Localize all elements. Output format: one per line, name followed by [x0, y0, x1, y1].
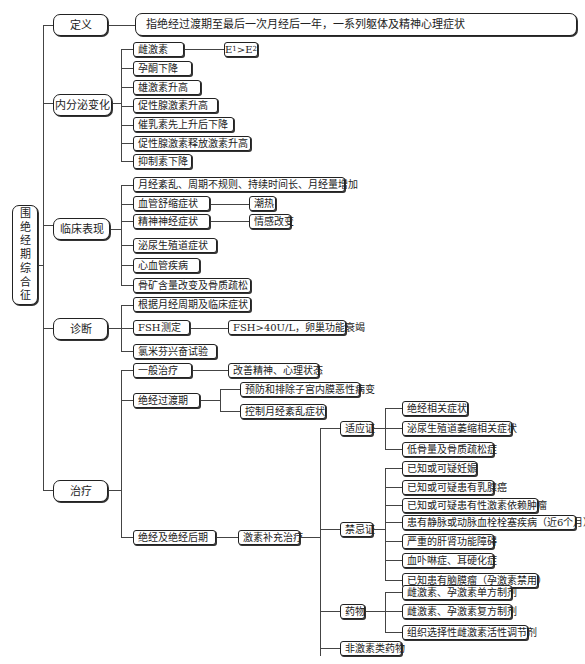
- line: [121, 245, 133, 246]
- line: [121, 68, 133, 69]
- e-label: E: [245, 45, 252, 55]
- fsh-result[interactable]: FSH>40U/L，卵巢功能衰竭: [228, 320, 346, 335]
- contraindication-item[interactable]: 已知或可疑患有性激素依赖肿瘤: [402, 498, 538, 513]
- general-treatment-sub[interactable]: 改善精神、心理状态: [228, 363, 319, 378]
- diagnosis-item-fsh[interactable]: FSH测定: [133, 320, 190, 335]
- line: [320, 529, 340, 530]
- transition-sub[interactable]: 预防和排除子宫内膜恶性病变: [240, 382, 360, 397]
- drugs-node[interactable]: 药物: [340, 604, 365, 619]
- line: [320, 428, 321, 656]
- line: [108, 490, 122, 491]
- transition-sub[interactable]: 控制月经紊乱症状: [240, 404, 326, 419]
- drug-item[interactable]: 雌激素、孕激素复方制剂: [402, 604, 512, 619]
- transition-period[interactable]: 绝经过渡期: [133, 393, 200, 408]
- postmenopause[interactable]: 绝经及绝经后期: [133, 530, 216, 545]
- root-char: 期: [20, 248, 31, 262]
- diagnosis-item[interactable]: 氯米芬兴奋试验: [133, 344, 217, 359]
- clinical-item[interactable]: 骨矿含量改变及骨质疏松: [133, 278, 251, 293]
- root-char: 征: [20, 289, 31, 303]
- line: [216, 537, 238, 538]
- line: [121, 204, 133, 205]
- root-node[interactable]: 围 绝 经 期 综 合 征: [12, 205, 38, 305]
- line: [385, 632, 402, 633]
- contraindications-node[interactable]: 禁忌证: [340, 522, 373, 537]
- drug-item[interactable]: 组织选择性雌激素活性调节剂: [402, 625, 528, 640]
- general-treatment[interactable]: 一般治疗: [133, 363, 192, 378]
- endocrine-item[interactable]: 催乳素先上升后下降: [133, 117, 234, 132]
- line: [108, 328, 122, 329]
- definition-text[interactable]: 指绝经过渡期至最后一次月经后一年，一系列躯体及精神心理症状: [135, 13, 577, 36]
- line: [385, 560, 402, 561]
- branch-diagnosis[interactable]: 诊断: [53, 318, 108, 340]
- line: [121, 537, 133, 538]
- contraindication-item[interactable]: 患有静脉或动脉血栓栓塞疾病（近6个月）: [402, 515, 576, 530]
- indication-item[interactable]: 泌尿生殖道萎缩相关症状: [402, 421, 512, 436]
- indication-item[interactable]: 绝经相关症状: [402, 401, 468, 416]
- line: [43, 490, 53, 491]
- line: [220, 389, 240, 390]
- estrogen-ratio[interactable]: E1>E2: [224, 42, 258, 57]
- line: [43, 25, 53, 26]
- line: [121, 185, 122, 285]
- contraindication-item[interactable]: 严重的肝肾功能障碍: [402, 534, 494, 549]
- contraindication-item[interactable]: 已知或可疑妊娠: [402, 461, 477, 476]
- branch-treatment[interactable]: 治疗: [53, 480, 108, 502]
- line: [190, 328, 228, 329]
- branch-endocrine[interactable]: 内分泌变化: [53, 94, 112, 116]
- line: [121, 265, 133, 266]
- endocrine-item-estrogen[interactable]: 雌激素: [133, 42, 184, 57]
- line: [184, 49, 224, 50]
- line: [385, 468, 386, 581]
- line: [210, 221, 249, 222]
- line: [385, 592, 386, 632]
- line: [121, 125, 133, 126]
- line: [121, 49, 122, 161]
- line: [220, 389, 221, 411]
- clinical-item[interactable]: 月经紊乱、周期不规则、持续时间长、月经量增加: [133, 177, 345, 192]
- line: [121, 143, 133, 144]
- line: [121, 370, 122, 538]
- neuro-sub[interactable]: 情感改变: [249, 214, 291, 229]
- clinical-item[interactable]: 心血管疾病: [133, 258, 200, 273]
- line: [385, 428, 402, 429]
- hrt-node[interactable]: 激素补充治疗: [238, 530, 300, 545]
- line: [121, 161, 133, 162]
- subscript: 2: [253, 46, 257, 53]
- line: [385, 580, 402, 581]
- line: [108, 25, 135, 26]
- root-char: 合: [20, 276, 31, 290]
- line: [220, 411, 240, 412]
- vasomotor-sub[interactable]: 潮热: [249, 196, 276, 211]
- diagnosis-item[interactable]: 根据月经周期及临床症状: [133, 297, 251, 312]
- line: [385, 487, 402, 488]
- line: [300, 537, 320, 538]
- line: [43, 225, 53, 226]
- endocrine-item[interactable]: 促性腺激素升高: [133, 98, 218, 113]
- indication-item[interactable]: 低骨量及骨质疏松症: [402, 442, 494, 457]
- root-char: 绝: [20, 221, 31, 235]
- line: [365, 611, 385, 612]
- line: [385, 541, 402, 542]
- contraindication-item[interactable]: 血卟啉症、耳硬化症: [402, 553, 494, 568]
- branch-definition[interactable]: 定义: [53, 14, 108, 36]
- endocrine-item[interactable]: 促性腺激素释放激素升高: [133, 136, 251, 151]
- line: [43, 328, 53, 329]
- line: [121, 328, 133, 329]
- trunk-line: [43, 25, 44, 491]
- endocrine-item[interactable]: 抑制素下降: [133, 154, 192, 169]
- line: [43, 103, 53, 104]
- non-hormonal-drugs[interactable]: 非激素类药物: [340, 641, 402, 656]
- root-connector: [38, 265, 44, 266]
- contraindication-item[interactable]: 已知或可疑患有乳腺癌: [402, 480, 494, 495]
- clinical-item[interactable]: 泌尿生殖道症状: [133, 238, 217, 253]
- endocrine-item[interactable]: 雄激素升高: [133, 80, 201, 95]
- branch-clinical[interactable]: 临床表现: [53, 218, 110, 240]
- clinical-item-vasomotor[interactable]: 血管舒缩症状: [133, 196, 210, 211]
- line: [121, 49, 133, 50]
- line: [200, 400, 220, 401]
- drug-item[interactable]: 雌激素、孕激素单方制剂: [402, 585, 512, 600]
- clinical-item-neuro[interactable]: 精神神经症状: [133, 214, 210, 229]
- indications-node[interactable]: 适应证: [340, 421, 373, 436]
- line: [385, 408, 402, 409]
- endocrine-item[interactable]: 孕酮下降: [133, 61, 192, 76]
